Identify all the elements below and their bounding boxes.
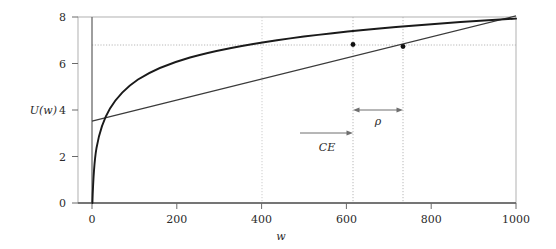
rho-annotation-label: ρ: [374, 115, 382, 128]
ce-annotation-label: CE: [319, 141, 335, 154]
x-tick-label-1000: 1000: [502, 213, 530, 226]
y-tick-label-4: 4: [59, 104, 66, 117]
y-axis-title: U(w): [30, 104, 57, 117]
x-tick-label-200: 200: [166, 213, 187, 226]
certainty-equivalent-point: [351, 42, 356, 47]
y-tick-label-0: 0: [59, 197, 66, 210]
chart-figure: 0 2 4 6 8 0 200 400 600 800 1000 U(w) w …: [0, 0, 556, 249]
y-tick-label-8: 8: [59, 11, 66, 24]
utility-function-plot: 0 2 4 6 8 0 200 400 600 800 1000 U(w) w …: [0, 0, 556, 249]
x-tick-label-0: 0: [89, 213, 96, 226]
x-tick-label-800: 800: [421, 213, 442, 226]
y-tick-label-2: 2: [59, 151, 66, 164]
x-axis-ticks: [92, 203, 516, 209]
x-tick-label-400: 400: [251, 213, 272, 226]
expected-wealth-point: [401, 44, 406, 49]
y-tick-label-6: 6: [59, 58, 66, 71]
x-tick-label-600: 600: [336, 213, 357, 226]
y-axis-ticks: [72, 17, 78, 203]
x-axis-title: w: [276, 230, 286, 243]
